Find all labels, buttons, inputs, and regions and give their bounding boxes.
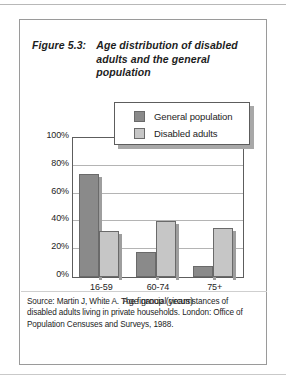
- y-axis-tick-label: 80%: [51, 158, 69, 168]
- bar: [136, 252, 156, 277]
- figure-title: Figure 5.3: Age distribution of disabled…: [32, 39, 258, 80]
- figure-caption-text: Age distribution of disabled adults and …: [96, 39, 258, 80]
- bar: [213, 228, 233, 277]
- bar-shadow: [233, 231, 236, 280]
- bar-group: [79, 138, 119, 277]
- legend-color-swatch: [134, 111, 145, 122]
- x-axis-tick-labels: 16-5960-7475+: [73, 282, 243, 296]
- bar: [156, 221, 176, 277]
- y-axis-tick-label: 0%: [56, 269, 69, 279]
- bar: [193, 266, 213, 277]
- bars-layer: [73, 138, 243, 277]
- y-axis-tick-label: 60%: [51, 186, 69, 196]
- bar-group: [136, 138, 176, 277]
- bar-shadow: [119, 234, 122, 280]
- figure-number-label: Figure 5.3:: [32, 39, 86, 51]
- bar-chart: 0%20%40%60%80%100% 16-5960-7475+ Age gro…: [32, 80, 256, 308]
- chart-legend: General populationDisabled adults: [114, 102, 250, 145]
- y-axis-tick-labels: 0%20%40%60%80%100%: [32, 137, 69, 278]
- page-top-rule: [0, 4, 286, 5]
- bar: [79, 174, 99, 277]
- legend-label: Disabled adults: [154, 128, 217, 139]
- legend-label: General population: [154, 111, 232, 122]
- source-divider: [21, 291, 267, 292]
- bar: [99, 231, 119, 277]
- legend-item: General population: [134, 111, 232, 122]
- legend-item: Disabled adults: [134, 128, 217, 139]
- y-axis-tick-label: 40%: [51, 213, 69, 223]
- y-axis-tick-label: 20%: [51, 241, 69, 251]
- y-axis-tick-label: 100%: [46, 130, 69, 140]
- figure-container: Figure 5.3: Age distribution of disabled…: [19, 19, 267, 365]
- legend-color-swatch: [134, 128, 145, 139]
- bar-shadow: [176, 224, 179, 280]
- source-note: Source: Martin J, White A. The financial…: [27, 296, 259, 330]
- page-bottom-rule: [0, 374, 286, 375]
- bar-group: [193, 138, 233, 277]
